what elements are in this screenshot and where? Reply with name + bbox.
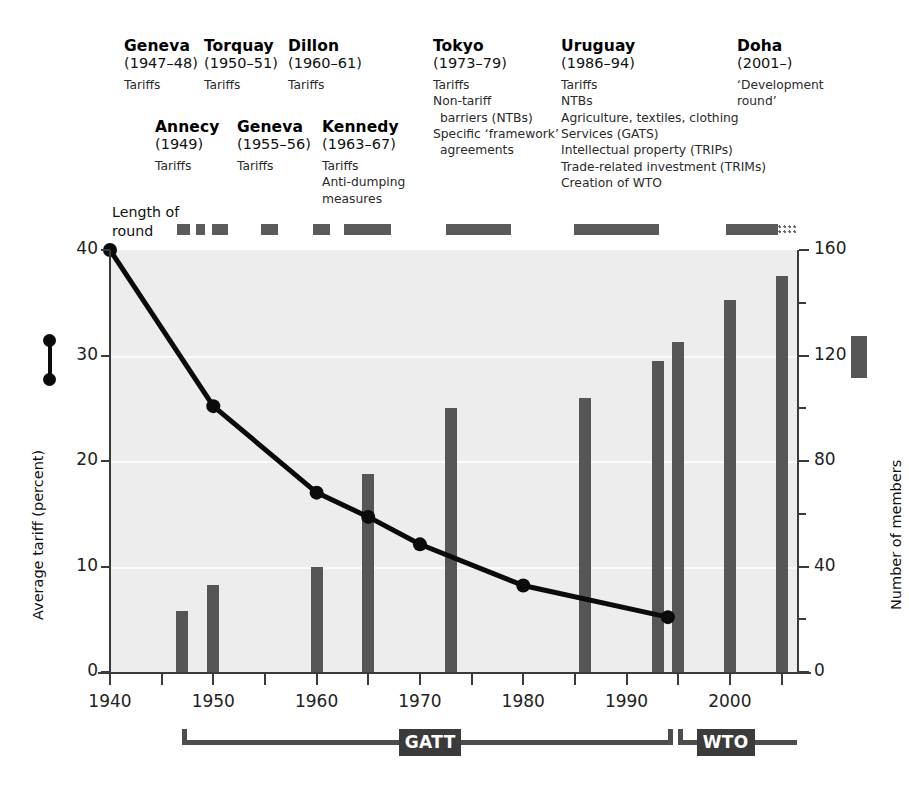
length-of-round-bar: [344, 224, 391, 235]
round-years: (1947–48): [124, 55, 198, 73]
era-cap-end: [668, 729, 673, 741]
round-topic: ‘Development: [737, 77, 824, 93]
y-axis-right-minor-tick: [799, 302, 806, 304]
y-axis-right-minor-tick: [799, 407, 806, 409]
round-years: (1960–61): [288, 55, 362, 73]
x-axis-tick: [419, 674, 421, 685]
round-column-dillon-top: Dillon(1960–61)Tariffs: [288, 38, 362, 93]
round-topic-list: TariffsNTBsAgriculture, textiles, clothi…: [561, 77, 766, 191]
length-of-round-bar: [212, 224, 228, 235]
y-axis-right-tick: [799, 249, 809, 251]
bar: [445, 408, 457, 672]
length-of-round-bar: [446, 224, 511, 235]
x-axis-tick: [626, 674, 628, 685]
round-name: Dillon: [288, 38, 362, 54]
bar: [724, 300, 736, 672]
round-topic: Agriculture, textiles, clothing: [561, 110, 766, 126]
round-name: Doha: [737, 38, 824, 54]
y-axis-right-tick: [799, 355, 809, 357]
round-topic: measures: [322, 191, 405, 207]
round-topic: Anti-dumping: [322, 174, 405, 190]
round-years: (1950–51): [204, 55, 278, 73]
y-axis-left-tick: [101, 671, 110, 673]
x-axis-tick-label: 1990: [587, 691, 667, 711]
round-name: Torquay: [204, 38, 278, 54]
length-of-round-bar: [177, 224, 190, 235]
round-name: Geneva: [124, 38, 198, 54]
y-axis-left-tick: [101, 460, 110, 462]
y-axis-left-tick-label: 10: [50, 555, 98, 575]
length-of-round-bar-dotted: [778, 224, 798, 235]
y-axis-left-tick: [101, 355, 110, 357]
x-axis-tick: [109, 674, 111, 685]
x-axis-tick: [316, 674, 318, 685]
round-topic-list: Tariffs: [155, 158, 219, 174]
y-axis-right-tick-label: 0: [814, 660, 862, 680]
round-column-geneva-bottom: Geneva(1955–56)Tariffs: [237, 119, 311, 174]
x-axis-minor-tick: [677, 674, 679, 685]
round-column-doha-top: Doha(2001–)‘Developmentround’: [737, 38, 824, 110]
x-axis-minor-tick: [574, 674, 576, 685]
round-topic-list: ‘Developmentround’: [737, 77, 824, 110]
round-column-torquay-top: Torquay(1950–51)Tariffs: [204, 38, 278, 93]
length-of-round-label: Length ofround: [112, 203, 179, 240]
y-axis-right-tick-label: 40: [814, 555, 862, 575]
era-tag-gatt: GATT: [399, 729, 461, 756]
round-topic-list: Tariffs: [288, 77, 362, 93]
y-axis-right-tick: [799, 671, 809, 673]
x-axis-tick-label: 1940: [70, 691, 150, 711]
round-topic: Non-tariff: [433, 93, 559, 109]
round-topic: Tariffs: [561, 77, 766, 93]
length-of-round-bar: [726, 224, 778, 235]
era-cap-start: [182, 729, 187, 741]
round-years: (1986–94): [561, 55, 766, 73]
y-axis-left-tick-label: 0: [50, 660, 98, 680]
y-axis-left-title: Average tariff (percent): [30, 450, 46, 620]
length-of-round-bar: [313, 224, 330, 235]
round-topic-list: Tariffs: [237, 158, 311, 174]
round-topic-list: Tariffs: [124, 77, 198, 93]
y-axis-right-tick: [799, 460, 809, 462]
x-axis-tick-label: 1970: [380, 691, 460, 711]
round-topic: Tariffs: [433, 77, 559, 93]
round-topic: Tariffs: [155, 158, 219, 174]
round-topic: round’: [737, 93, 824, 109]
y-axis-right-minor-tick: [799, 513, 806, 515]
x-axis-tick-label: 1960: [277, 691, 357, 711]
x-axis-minor-tick: [367, 674, 369, 685]
bar: [672, 342, 684, 672]
round-name: Annecy: [155, 119, 219, 135]
round-topic: Creation of WTO: [561, 175, 766, 191]
x-axis-tick-label: 1950: [173, 691, 253, 711]
round-topic: agreements: [433, 142, 559, 158]
bar: [311, 567, 323, 673]
bar: [776, 276, 788, 672]
round-topic-list: TariffsAnti-dumpingmeasures: [322, 158, 405, 207]
y-axis-right-minor-tick: [799, 618, 806, 620]
length-of-round-bar: [261, 224, 278, 235]
bar: [362, 474, 374, 672]
y-axis-left-tick-label: 20: [50, 449, 98, 469]
round-topic: NTBs: [561, 93, 766, 109]
era-tag-wto: WTO: [697, 729, 755, 756]
round-years: (1949): [155, 136, 219, 154]
x-axis-minor-tick: [264, 674, 266, 685]
length-of-round-bar: [196, 224, 205, 235]
round-column-annecy-bottom: Annecy(1949)Tariffs: [155, 119, 219, 174]
round-years: (1955–56): [237, 136, 311, 154]
bar: [652, 361, 664, 672]
y-axis-right-tick-label: 80: [814, 449, 862, 469]
y-axis-right-tick-label: 160: [814, 238, 862, 258]
round-topic: Intellectual property (TRIPs): [561, 142, 766, 158]
x-axis-tick: [212, 674, 214, 685]
length-of-round-bar: [574, 224, 659, 235]
x-axis-tick-label: 2000: [690, 691, 770, 711]
round-topic: Specific ‘framework’: [433, 126, 559, 142]
round-column-kennedy-bottom: Kennedy(1963–67)TariffsAnti-dumpingmeasu…: [322, 119, 405, 207]
round-topic-list: Tariffs: [204, 77, 278, 93]
y-axis-left-tick: [101, 249, 110, 251]
round-topic: Services (GATS): [561, 126, 766, 142]
x-axis-tick: [729, 674, 731, 685]
legend-line-marker: [40, 334, 60, 386]
y-axis-left-tick-label: 40: [50, 238, 98, 258]
